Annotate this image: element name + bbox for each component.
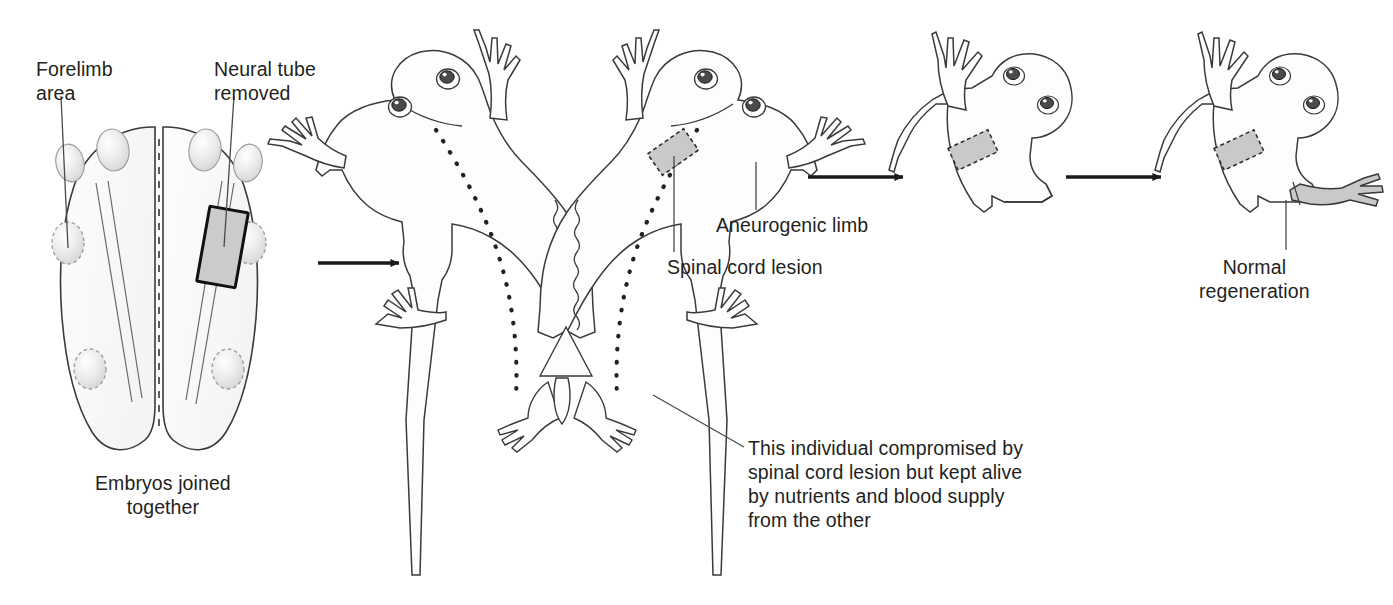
panel-amputated-larva bbox=[889, 32, 1072, 212]
panel-regenerated-larva bbox=[1155, 32, 1383, 250]
label-compromised-individual-note: This individual compromised by spinal co… bbox=[748, 436, 1023, 532]
label-normal-regeneration: Normal regeneration bbox=[1199, 255, 1310, 303]
label-embryos-joined-together: Embryos joined together bbox=[95, 471, 231, 519]
amputated-larva-eye-upper bbox=[1004, 67, 1025, 85]
embryo-right-hindlimb-bud bbox=[212, 349, 244, 389]
figure-root: Forelimb area Neural tube removed Embryo… bbox=[0, 0, 1393, 605]
larva-right-eye-lower bbox=[743, 97, 766, 117]
label-aneurogenic-limb: Aneurogenic limb bbox=[716, 213, 868, 237]
larva-right-eye-upper bbox=[695, 69, 718, 89]
conjoined-median-hindlimb-right bbox=[574, 382, 636, 452]
embryo-left-hindlimb-bud bbox=[74, 349, 106, 389]
larva-left-eye-lower bbox=[389, 97, 412, 117]
regenerated-larva-eye-upper bbox=[1270, 67, 1291, 85]
regenerated-larva-eye-lower bbox=[1304, 96, 1325, 114]
leader-compromised-note bbox=[653, 395, 744, 447]
label-neural-tube-removed: Neural tube removed bbox=[214, 57, 316, 105]
label-forelimb-area: Forelimb area bbox=[36, 57, 113, 105]
panel-embryos bbox=[52, 96, 266, 450]
label-spinal-cord-lesion: Spinal cord lesion bbox=[667, 255, 823, 279]
larva-left-eye-upper bbox=[437, 69, 460, 89]
conjoined-median-hindlimb-left bbox=[498, 382, 560, 452]
amputated-larva-eye-lower bbox=[1038, 96, 1059, 114]
